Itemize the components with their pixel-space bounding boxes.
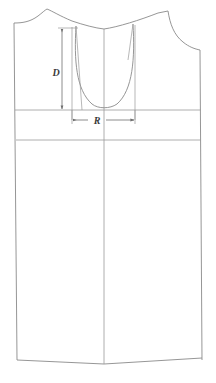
right-side-seam xyxy=(200,50,202,360)
neckline-right-tangent xyxy=(128,24,133,60)
right-shoulder-line xyxy=(104,11,168,29)
pattern-drawing-canvas: D R xyxy=(0,0,216,383)
hem-line xyxy=(17,358,202,364)
dimension-r-label: R xyxy=(93,115,101,126)
right-armhole-curve xyxy=(168,11,200,50)
left-shoulder-curve xyxy=(14,9,104,29)
pattern-diagram: D R xyxy=(0,0,216,383)
dimension-d-label: D xyxy=(51,67,59,78)
neckline-curve xyxy=(75,24,133,108)
left-side-seam xyxy=(14,23,17,360)
